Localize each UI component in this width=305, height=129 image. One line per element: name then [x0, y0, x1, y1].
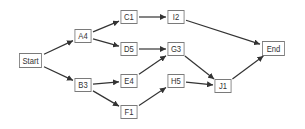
node-f1: F1 [121, 105, 138, 119]
node-d5: D5 [121, 42, 138, 56]
node-g3: G3 [168, 42, 185, 56]
edge-b3-to-e4 [93, 82, 119, 84]
node-b3: B3 [75, 78, 92, 92]
edge-h5-to-j1 [186, 82, 213, 85]
edge-start-to-a4 [44, 41, 73, 55]
edge-e4-to-g3 [139, 56, 166, 74]
edge-a4-to-c1 [93, 21, 119, 32]
edge-start-to-b3 [44, 67, 73, 81]
edge-a4-to-d5 [93, 39, 119, 46]
node-e4: E4 [121, 74, 138, 88]
edges-layer [0, 0, 305, 129]
node-c1: C1 [121, 10, 138, 24]
edge-j1-to-end [232, 56, 263, 79]
node-end: End [262, 41, 285, 56]
node-j1: J1 [215, 79, 232, 93]
node-i2: I2 [168, 10, 185, 24]
edge-i2-to-end [186, 20, 260, 44]
edge-b3-to-f1 [93, 91, 119, 106]
node-a4: A4 [75, 29, 92, 43]
node-start: Start [19, 53, 42, 68]
network-diagram: StartA4B3C1D5E4F1I2G3H5J1End [0, 0, 305, 129]
node-h5: H5 [168, 74, 185, 88]
edge-f1-to-h5 [139, 88, 166, 106]
edge-g3-to-j1 [185, 56, 214, 79]
